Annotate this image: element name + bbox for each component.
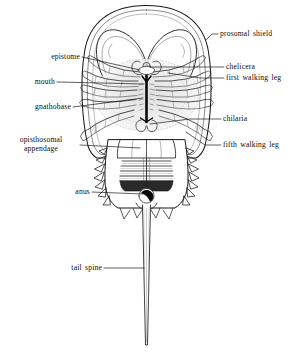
label-tail-spine: tail spine	[0, 264, 102, 273]
label-chelicera: chelicera	[226, 63, 255, 72]
label-fifth-walking-leg: fifth walking leg	[223, 141, 279, 150]
label-anus: anus	[0, 188, 90, 197]
label-gnathobase: gnathobase	[0, 103, 71, 112]
horseshoe-crab-anatomy-figure: prosomal shield epistome chelicera first…	[0, 0, 293, 357]
label-opisthosomal-appendage: opisthosomal appendage	[4, 136, 78, 153]
leader-prosomal-shield	[206, 34, 218, 40]
label-mouth: mouth	[0, 78, 55, 87]
leader-fifth-walking-leg	[186, 132, 221, 145]
label-opisthosomal-appendage-line2: appendage	[24, 144, 58, 153]
label-prosomal-shield: prosomal shield	[220, 30, 272, 39]
label-chilaria: chilaria	[223, 115, 247, 124]
label-first-walking-leg: first walking leg	[226, 74, 281, 83]
label-epistome: epistome	[0, 53, 80, 62]
